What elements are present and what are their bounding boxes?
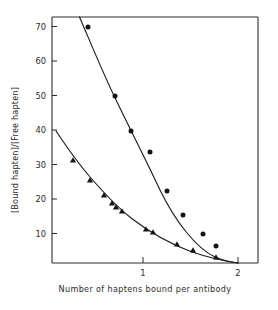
plot-frame	[52, 17, 258, 263]
x-tick-label-1: 1	[140, 268, 145, 278]
scatchard-plot-figure: 70 60 50 40 30 20 10 1 2 Number of hapte…	[0, 0, 278, 310]
y-tick-label-30: 30	[35, 160, 46, 170]
y-tick-labels: 70 60 50 40 30 20 10	[35, 22, 46, 239]
y-axis-title: [Bound hapten]/[Free hapten]	[10, 87, 20, 213]
data-point-circle	[148, 150, 153, 155]
y-tick-label-20: 20	[35, 194, 46, 204]
data-point-triangle	[174, 241, 180, 246]
y-tick-label-10: 10	[35, 229, 46, 239]
data-point-circle	[214, 244, 219, 249]
chart-svg: 70 60 50 40 30 20 10 1 2 Number of hapte…	[0, 0, 278, 310]
y-tick-label-40: 40	[35, 125, 46, 135]
y-tick-label-70: 70	[35, 22, 46, 32]
series-high-affinity-points	[86, 25, 219, 249]
data-point-circle	[86, 25, 91, 30]
series-high-affinity-curve	[80, 17, 239, 263]
data-point-circle	[113, 94, 118, 99]
x-tick-label-2: 2	[235, 268, 240, 278]
x-tick-labels: 1 2	[140, 268, 240, 278]
data-point-circle	[201, 232, 206, 237]
x-axis-title: Number of haptens bound per antibody	[59, 284, 232, 294]
y-tick-label-50: 50	[35, 91, 46, 101]
curve-triangles	[56, 131, 238, 263]
y-tick-label-60: 60	[35, 56, 46, 66]
data-point-circle	[165, 189, 170, 194]
curve-circles	[80, 17, 239, 263]
data-point-circle	[181, 213, 186, 218]
series-low-affinity-curve	[56, 131, 238, 263]
y-axis-ticks	[52, 27, 57, 234]
data-point-triangle	[190, 247, 196, 252]
data-point-circle	[129, 129, 134, 134]
